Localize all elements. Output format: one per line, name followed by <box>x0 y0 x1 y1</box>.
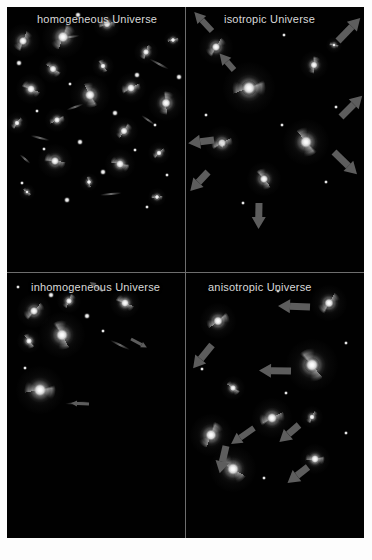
figure-panel-grid: homogeneous Universe isotropic Universe … <box>7 7 364 538</box>
spiral-galaxy-icon <box>61 293 77 309</box>
arrow-shaft <box>271 367 291 374</box>
star-point <box>16 60 22 66</box>
spiral-galaxy-icon <box>305 410 319 424</box>
galaxy-core <box>49 65 57 73</box>
star-point <box>35 109 39 113</box>
galaxy-core <box>19 37 28 46</box>
spiral-galaxy-icon <box>151 191 163 203</box>
spiral-galaxy-icon <box>110 154 130 174</box>
spiral-galaxy-icon <box>49 23 77 51</box>
motion-arrow-icon <box>128 334 150 353</box>
motion-arrow-icon <box>186 164 217 199</box>
arrow-head <box>259 363 271 377</box>
galaxy-core <box>143 49 150 56</box>
spiral-galaxy-icon <box>167 34 179 46</box>
galaxy-core <box>267 413 278 424</box>
star-point <box>344 341 348 345</box>
galaxy-core <box>309 414 315 420</box>
arrow-shaft <box>77 402 89 405</box>
arrow-head <box>187 135 201 150</box>
star-point <box>280 123 284 127</box>
arrow-head <box>71 400 77 406</box>
spiral-galaxy-icon <box>83 176 95 188</box>
star-point <box>282 33 286 37</box>
galaxy-core <box>156 150 162 156</box>
star-point <box>262 476 266 480</box>
star-point <box>77 139 83 145</box>
galaxy-core <box>14 120 20 126</box>
star-point <box>204 113 208 117</box>
panel-anisotropic[interactable]: anisotropic Universe <box>186 273 364 538</box>
star-point <box>101 329 105 333</box>
arrow-shaft <box>200 137 215 146</box>
motion-arrow-icon <box>86 277 106 296</box>
star-point <box>241 201 245 205</box>
star-point <box>112 110 118 116</box>
galaxy-core <box>26 338 33 345</box>
galaxy-core <box>85 90 96 101</box>
arrow-shaft <box>94 284 104 292</box>
star-point <box>176 74 182 80</box>
spiral-galaxy-icon <box>253 168 275 190</box>
spiral-galaxy-icon <box>21 333 37 349</box>
galaxy-streak <box>100 192 122 196</box>
star-point <box>84 313 90 319</box>
star-point <box>276 289 280 293</box>
star-point <box>100 169 106 175</box>
star-point <box>64 197 70 203</box>
motion-arrow-icon <box>259 358 291 383</box>
star-point <box>48 292 54 298</box>
galaxy-core <box>222 143 225 146</box>
spiral-galaxy-icon <box>98 15 116 33</box>
galaxy-core <box>205 429 217 441</box>
spiral-galaxy-icon <box>317 291 341 315</box>
motion-arrow-icon <box>333 87 364 125</box>
star-point <box>75 12 81 18</box>
motion-arrow-icon <box>247 203 271 229</box>
spiral-galaxy-icon <box>23 300 45 322</box>
galaxy-core <box>332 43 336 47</box>
star-point <box>16 285 20 289</box>
galaxy-core <box>310 61 318 69</box>
galaxy-core <box>100 63 106 69</box>
star-point <box>284 391 288 395</box>
spiral-galaxy-icon <box>291 127 321 157</box>
galaxy-core <box>213 316 223 326</box>
panel-isotropic[interactable]: isotropic Universe <box>186 7 364 272</box>
galaxy-core <box>51 157 60 166</box>
spiral-galaxy-icon <box>206 309 230 333</box>
galaxy-core <box>66 298 73 305</box>
galaxy-core <box>311 455 320 464</box>
galaxy-core <box>230 385 237 392</box>
spiral-galaxy-icon <box>329 40 339 50</box>
galaxy-core <box>30 307 39 316</box>
arrow-shaft <box>255 203 262 217</box>
star-point <box>133 148 137 152</box>
arrow-head <box>252 217 266 229</box>
spiral-galaxy-icon <box>77 82 103 108</box>
motion-arrow-icon <box>71 397 89 410</box>
spiral-galaxy-icon <box>305 449 325 469</box>
galaxy-core <box>324 298 334 308</box>
galaxy-streak <box>110 339 131 350</box>
spiral-galaxy-icon <box>219 140 227 148</box>
galaxy-core <box>33 383 47 397</box>
galaxy-core <box>260 175 269 184</box>
arrow-head <box>140 342 148 350</box>
panel-homogeneous[interactable]: homogeneous Universe <box>7 7 185 272</box>
spiral-galaxy-icon <box>22 187 32 197</box>
spiral-galaxy-icon <box>49 112 65 128</box>
galaxy-core <box>161 98 171 108</box>
panel-label-anisotropic: anisotropic Universe <box>208 281 312 293</box>
spiral-galaxy-icon <box>47 320 77 350</box>
spiral-galaxy-icon <box>12 30 34 52</box>
motion-arrow-icon <box>186 337 221 375</box>
galaxy-core <box>57 31 69 43</box>
galaxy-core <box>300 136 313 149</box>
galaxy-streak <box>30 135 50 142</box>
panel-inhomogeneous[interactable]: inhomogeneous Universe <box>7 273 185 538</box>
arrow-shaft <box>219 445 229 462</box>
spiral-galaxy-icon <box>21 79 41 99</box>
star-point <box>344 431 348 435</box>
motion-arrow-icon <box>326 143 364 182</box>
